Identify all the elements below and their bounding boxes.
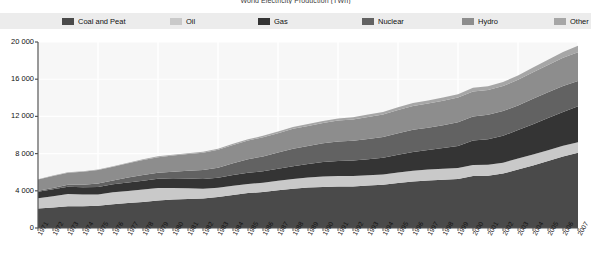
y-axis-tick-label: 4 000 (0, 186, 34, 195)
y-axis-tick-label: 20 000 (0, 37, 34, 46)
y-axis-tick-label: 8 000 (0, 149, 34, 158)
y-axis-tick-label: 12 000 (0, 111, 34, 120)
y-axis-tick-label: 0 (0, 223, 34, 232)
y-axis-tick-label: 16 000 (0, 74, 34, 83)
chart-root: World Electricity Production (TWh) Coal … (0, 0, 591, 268)
